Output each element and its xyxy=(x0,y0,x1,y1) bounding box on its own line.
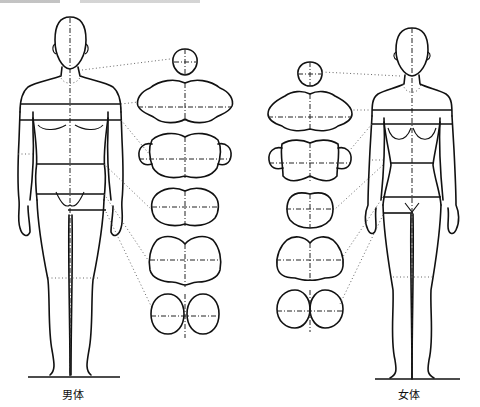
female-section-chest xyxy=(268,92,352,131)
male-leader-head xyxy=(82,59,170,70)
male-figure xyxy=(18,17,170,378)
female-leader-bust xyxy=(350,124,372,150)
male-section-thighs xyxy=(151,294,219,338)
male-leg-right xyxy=(71,200,104,375)
male-section-bust xyxy=(139,133,231,178)
female-section-thighs xyxy=(277,290,343,332)
male-figure-label: 男体 xyxy=(62,386,84,402)
female-leader-waist xyxy=(334,165,383,210)
male-sections xyxy=(138,49,233,338)
male-section-chest xyxy=(138,80,233,122)
female-arm-left xyxy=(365,116,384,233)
female-leg-left xyxy=(383,205,412,378)
female-leader-thigh xyxy=(340,215,383,304)
female-leader-head xyxy=(322,72,400,76)
female-leg-right xyxy=(412,205,441,378)
male-leader-chest xyxy=(121,102,138,104)
female-arm-right xyxy=(440,116,459,233)
female-section-hip xyxy=(276,237,344,282)
female-section-bust xyxy=(269,140,351,182)
male-arm-right xyxy=(108,112,124,235)
male-section-head xyxy=(173,49,197,75)
male-leg-left xyxy=(37,200,70,375)
female-figure-label: 女体 xyxy=(398,386,420,402)
female-section-head xyxy=(298,62,322,86)
female-sections xyxy=(268,62,352,332)
female-section-waist xyxy=(286,193,334,228)
female-leader-hip xyxy=(342,197,383,258)
diagram-canvas xyxy=(0,0,480,407)
male-leader-thigh xyxy=(106,212,152,308)
female-figure xyxy=(322,28,460,380)
male-arm-left xyxy=(18,112,34,235)
male-section-waist xyxy=(152,188,219,226)
male-section-hip xyxy=(149,237,220,287)
male-leader-waist xyxy=(104,164,152,210)
male-leader-bust xyxy=(121,120,150,155)
